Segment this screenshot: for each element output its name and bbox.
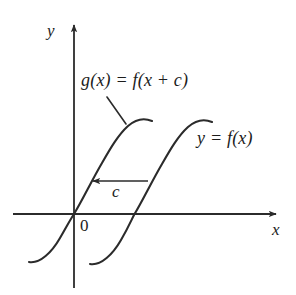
y-axis-label: y: [47, 22, 55, 39]
x-axis-label: x: [272, 221, 280, 238]
shift-amount-label: c: [112, 183, 120, 200]
g-function-label: g(x) = f(x + c): [81, 71, 188, 89]
function-shift-figure: g(x) = f(x + c) y = f(x) c y x 0: [0, 0, 296, 295]
f-function-label: y = f(x): [197, 129, 253, 147]
g-curve: [29, 119, 152, 262]
f-curve: [90, 120, 212, 264]
origin-label: 0: [80, 217, 89, 234]
g-label-leader-line: [107, 97, 126, 124]
